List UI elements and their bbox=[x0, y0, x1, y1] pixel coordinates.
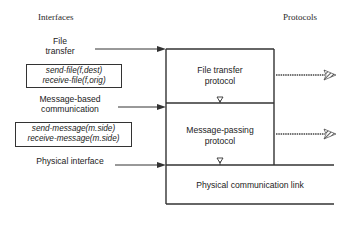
message-based-arrow bbox=[118, 104, 166, 110]
file-transfer-protocol-label: File transfer protocol bbox=[166, 65, 274, 87]
physical-link-label: Physical communication link bbox=[166, 180, 334, 191]
message-passing-protocol-label: Message-passing protocol bbox=[166, 125, 274, 147]
message-passing-peer-arrow-icon bbox=[276, 129, 336, 139]
message-passing-protocol-line1: Message-passing bbox=[166, 125, 274, 136]
file-transfer-arrow bbox=[95, 46, 166, 52]
physical-interface-arrow bbox=[115, 162, 166, 168]
file-transfer-protocol-line1: File transfer bbox=[166, 65, 274, 76]
file-transfer-peer-arrow-icon bbox=[276, 70, 336, 80]
file-to-message-interface-icon bbox=[217, 97, 223, 103]
message-passing-protocol-line2: protocol bbox=[166, 136, 274, 147]
message-to-physical-interface-icon bbox=[217, 158, 223, 165]
file-transfer-protocol-line2: protocol bbox=[166, 76, 274, 87]
